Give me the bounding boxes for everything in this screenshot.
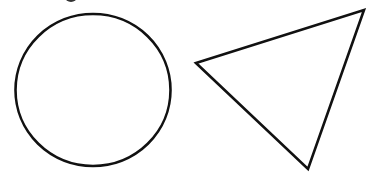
shapes-canvas [0,0,368,181]
